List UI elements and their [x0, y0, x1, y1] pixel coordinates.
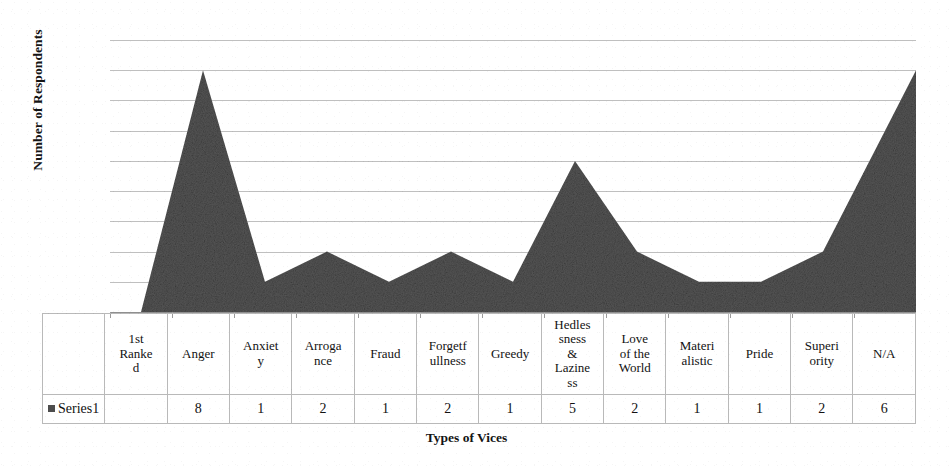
table-cell-value [105, 395, 167, 424]
table-cell-category: Anxiety [230, 314, 292, 395]
category-label-line: Forgetf [418, 339, 477, 354]
category-label-line: Materi [667, 339, 726, 354]
table-cell-value: 2 [417, 395, 479, 424]
table-cell-value: 1 [479, 395, 541, 424]
data-table: 1stRankedAngerAnxietyArroganceFraudForge… [42, 313, 916, 424]
category-label-line: y [231, 354, 290, 369]
table-cell-category: Loveof theWorld [604, 314, 666, 395]
area-series [110, 40, 916, 312]
table-cell-category: Superiority [791, 314, 853, 395]
data-table-wrapper: 1stRankedAngerAnxietyArroganceFraudForge… [42, 313, 916, 424]
category-label-line: ullness [418, 354, 477, 369]
category-label-line: Superi [792, 339, 851, 354]
category-label-line: Anxiet [231, 339, 290, 354]
table-cell-category: Greedy [479, 314, 541, 395]
table-row-categories: 1stRankedAngerAnxietyArroganceFraudForge… [43, 314, 916, 395]
category-label-line: Anger [169, 347, 228, 362]
category-label-line: Greedy [480, 347, 539, 362]
table-cell-value: 6 [853, 395, 916, 424]
category-label-line: d [106, 361, 165, 376]
plot-area [110, 40, 916, 312]
table-cell-category: Anger [167, 314, 229, 395]
legend-series-label: Series1 [58, 401, 99, 416]
table-cell-category: 1stRanked [105, 314, 167, 395]
x-axis-title: Types of Vices [0, 430, 949, 446]
category-label-line: ority [792, 354, 851, 369]
legend-series-cell: Series1 [43, 395, 105, 424]
category-label-line: alistic [667, 354, 726, 369]
category-label-line: ss [543, 376, 602, 391]
category-label-line: Arroga [293, 339, 352, 354]
table-cell-category: Materialistic [666, 314, 728, 395]
table-cell-category: Arrogance [292, 314, 354, 395]
table-cell-value: 1 [728, 395, 790, 424]
table-cell-category: Fraud [354, 314, 416, 395]
category-label-line: Hedles [543, 318, 602, 333]
category-label-line: Lazine [543, 361, 602, 376]
legend-swatch-icon [48, 405, 55, 412]
table-cell-value: 1 [230, 395, 292, 424]
table-cell-category: Hedlessness&Laziness [541, 314, 603, 395]
category-label-line: N/A [854, 347, 914, 362]
category-label-line: sness [543, 332, 602, 347]
category-label-line: of the [605, 347, 664, 362]
table-cell-category: Forgetfullness [417, 314, 479, 395]
category-label-line: Love [605, 332, 664, 347]
category-label-line: Pride [730, 347, 789, 362]
table-cell-value: 1 [354, 395, 416, 424]
table-cell-value: 2 [604, 395, 666, 424]
category-label-line: & [543, 347, 602, 362]
category-label-line: Fraud [356, 347, 415, 362]
table-cell-value: 5 [541, 395, 603, 424]
table-cell-value: 8 [167, 395, 229, 424]
legend-spacer-cell [43, 314, 105, 395]
chart-root: Number of Respondents 9876543210 1stRank… [0, 0, 949, 468]
category-label-line: World [605, 361, 664, 376]
y-axis-title: Number of Respondents [30, 0, 46, 200]
table-cell-value: 2 [791, 395, 853, 424]
x-axis-title-text: Types of Vices [426, 430, 508, 446]
table-cell-value: 1 [666, 395, 728, 424]
category-label-line: 1st [106, 332, 165, 347]
table-cell-value: 2 [292, 395, 354, 424]
category-label-line: Ranke [106, 347, 165, 362]
table-row-values: Series1 812121521126 [43, 395, 916, 424]
table-cell-category: Pride [728, 314, 790, 395]
category-label-line: nce [293, 354, 352, 369]
table-cell-category: N/A [853, 314, 916, 395]
